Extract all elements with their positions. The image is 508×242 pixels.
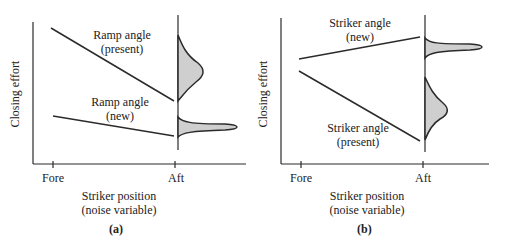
xlabel-line2: (noise variable) <box>324 203 410 217</box>
xlabel-line1: Striker position <box>324 189 410 203</box>
line-label-striker-new: Striker angle (new) <box>322 16 398 44</box>
line-label-ramp-new: Ramp angle (new) <box>86 95 154 123</box>
line-label-striker-present: Striker angle (present) <box>320 121 396 149</box>
caption-b: (b) <box>357 222 372 237</box>
label-line1: Ramp angle <box>86 95 154 109</box>
caption-a: (a) <box>109 222 123 237</box>
label-line2: (present) <box>320 135 396 149</box>
y-axis-label: Closing effort <box>8 60 23 128</box>
x-axis-label: Striker position (noise variable) <box>76 189 162 217</box>
label-line1: Ramp angle <box>88 28 156 42</box>
tick-label-aft: Aft <box>168 171 184 185</box>
tick-label-aft: Aft <box>415 171 431 185</box>
tick-label-fore: Fore <box>290 171 312 185</box>
xlabel-line2: (noise variable) <box>76 203 162 217</box>
distribution-narrow-new <box>178 117 237 137</box>
line-label-ramp-present: Ramp angle (present) <box>88 28 156 56</box>
distribution-wide-present <box>178 35 203 101</box>
y-axis-label: Closing effort <box>256 60 271 128</box>
tick-label-fore: Fore <box>42 171 64 185</box>
xlabel-line1: Striker position <box>76 189 162 203</box>
x-axis-label: Striker position (noise variable) <box>324 189 410 217</box>
label-line2: (new) <box>86 109 154 123</box>
distribution-wide-present <box>425 77 447 140</box>
label-line1: Striker angle <box>322 16 398 30</box>
label-line2: (new) <box>322 30 398 44</box>
label-line2: (present) <box>88 42 156 56</box>
distribution-narrow-new <box>425 38 482 58</box>
label-line1: Striker angle <box>320 121 396 135</box>
